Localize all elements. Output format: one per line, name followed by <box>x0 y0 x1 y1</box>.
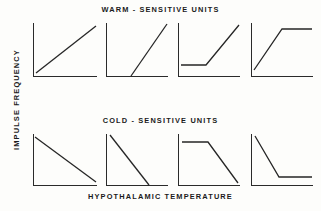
axes <box>179 23 241 77</box>
panel-cold-1 <box>31 133 99 189</box>
curve-cold-4 <box>255 136 312 177</box>
panel-warm-4 <box>249 22 315 80</box>
axes <box>107 23 169 77</box>
curve-warm-4 <box>254 29 312 70</box>
panel-cold-1-plot <box>31 133 99 189</box>
thermosensitive-units-figure: WARM - SENSITIVE UNITS COLD - SENSITIVE … <box>0 0 321 211</box>
panel-warm-4-plot <box>249 22 315 80</box>
panel-cold-3 <box>176 133 242 189</box>
panel-warm-2-plot <box>104 22 170 80</box>
panel-cold-3-plot <box>176 133 242 189</box>
curve-warm-1 <box>36 26 96 73</box>
panel-cold-4-plot <box>249 133 315 189</box>
x-axis-label: HYPOTHALAMIC TEMPERATURE <box>0 192 321 201</box>
axes <box>252 23 314 77</box>
y-axis-label: IMPULSE FREQUENCY <box>12 30 21 170</box>
panel-warm-1 <box>31 22 99 80</box>
cold-sensitive-units-title: COLD - SENSITIVE UNITS <box>0 116 321 125</box>
panel-warm-3 <box>176 22 242 80</box>
curve-warm-3 <box>181 25 239 65</box>
warm-sensitive-units-title: WARM - SENSITIVE UNITS <box>0 5 321 14</box>
panel-warm-2 <box>104 22 170 80</box>
curve-cold-2 <box>110 135 149 185</box>
panel-cold-2-plot <box>104 133 170 189</box>
axes <box>252 134 314 186</box>
curve-cold-1 <box>35 137 96 182</box>
curve-warm-2 <box>131 24 167 76</box>
panel-warm-3-plot <box>176 22 242 80</box>
panel-cold-2 <box>104 133 170 189</box>
panel-cold-4 <box>249 133 315 189</box>
curve-cold-3 <box>182 142 238 183</box>
panel-warm-1-plot <box>31 22 99 80</box>
